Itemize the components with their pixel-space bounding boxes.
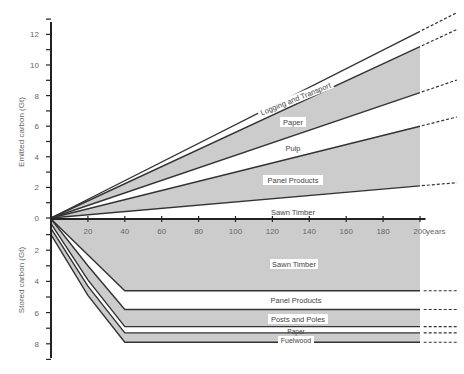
x-tick-label: 120 [266, 227, 280, 236]
x-tick-label: 20 [83, 227, 92, 236]
y-tick-label-stored: 8 [35, 340, 40, 349]
stored-label-fuel: Fuelwood [278, 336, 314, 344]
chart-canvas: 024681012246820406080100120140160180200 … [0, 0, 464, 374]
label-paper-emitted: Paper [283, 118, 304, 127]
x-axis-unit-label: years [426, 227, 446, 236]
label-panel-products-emitted: Panel Products [268, 176, 319, 185]
y-tick-label-emitted: 6 [35, 122, 40, 131]
y-axis-title-emitted: Emitted carbon (Gt) [17, 97, 26, 167]
stored-label-sawn: Sawn Timber [270, 259, 318, 269]
x-tick-label: 40 [120, 227, 129, 236]
label-paper-stored: Paper [287, 328, 305, 336]
label-posts-and-poles: Posts and Poles [271, 315, 325, 324]
y-tick-label-emitted: 0 [35, 214, 40, 223]
y-axis-title-stored: Stored carbon (Gt) [17, 247, 26, 314]
x-tick-label: 160 [340, 227, 354, 236]
y-tick-label-stored: 2 [35, 246, 40, 255]
emitted-dashed-extension [422, 183, 457, 186]
emitted-label-paper: Paper [280, 117, 306, 127]
stored-label-posts: Posts and Poles [268, 314, 328, 324]
y-tick-label-emitted: 10 [30, 61, 39, 70]
emitted-dashed-extension [422, 30, 457, 46]
y-tick-label-emitted: 2 [35, 183, 40, 192]
label-panel-products-stored: Panel Products [271, 296, 322, 305]
x-tick-label: 100 [229, 227, 243, 236]
emitted-dashed-extension [422, 117, 457, 126]
y-tick-label-emitted: 8 [35, 92, 40, 101]
label-fuelwood: Fuelwood [281, 337, 311, 344]
label-sawn-timber-stored: Sawn Timber [272, 260, 316, 269]
x-tick-label: 80 [194, 227, 203, 236]
label-sawn-timber-emitted: Sawn Timber [271, 208, 315, 217]
carbon-chart: 024681012246820406080100120140160180200 … [0, 0, 464, 374]
y-tick-label-emitted: 4 [35, 153, 40, 162]
x-tick-label: 60 [157, 227, 166, 236]
x-tick-label: 140 [303, 227, 317, 236]
emitted-dashed-extension [422, 13, 457, 31]
y-tick-label-emitted: 12 [30, 30, 39, 39]
y-tick-label-stored: 4 [35, 277, 40, 286]
emitted-dashed-extension [422, 80, 457, 92]
label-pulp: Pulp [285, 144, 300, 153]
x-tick-label: 180 [376, 227, 390, 236]
chart-bands [51, 31, 420, 342]
emitted-label-panel: Panel Products [263, 175, 323, 185]
y-tick-label-stored: 6 [35, 309, 40, 318]
